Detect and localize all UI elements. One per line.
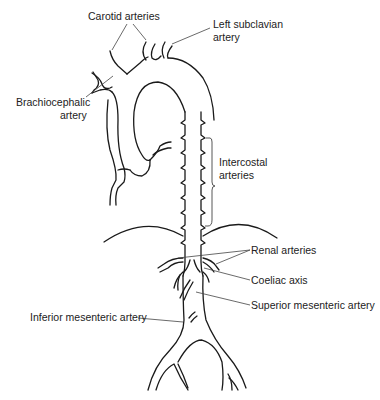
diaphragm-drawing xyxy=(104,224,277,242)
leader-coeliac xyxy=(204,268,250,280)
leader-carotid-right xyxy=(112,24,127,50)
abdominal-branches-drawing xyxy=(158,258,219,322)
label-inferior-mesenteric-artery: Inferior mesenteric artery xyxy=(30,311,147,323)
descending-aorta-drawing xyxy=(181,112,205,276)
leader-carotid-left xyxy=(133,24,146,40)
label-intercostal-line1: Intercostal xyxy=(219,156,267,168)
label-left-subclavian-line2: artery xyxy=(213,31,241,43)
aorta-diagram: Carotid arteries Left subclavian artery … xyxy=(0,0,380,400)
leader-left-subclavian xyxy=(172,28,210,44)
label-brachiocephalic-line2: artery xyxy=(60,109,88,121)
label-intercostal-line2: arteries xyxy=(219,169,254,181)
label-left-subclavian-line1: Left subclavian xyxy=(213,18,283,30)
label-superior-mesenteric-artery: Superior mesenteric artery xyxy=(251,299,375,311)
leader-renal-left xyxy=(178,250,250,258)
label-renal-arteries: Renal arteries xyxy=(251,244,316,256)
intercostal-brace xyxy=(205,138,215,226)
brachiocephalic-artery-drawing xyxy=(92,51,148,93)
label-brachiocephalic-line1: Brachiocephalic xyxy=(16,96,90,108)
abdominal-aorta-drawing xyxy=(148,276,246,390)
aortic-arch-drawing xyxy=(107,58,214,205)
label-coeliac-axis: Coeliac axis xyxy=(251,274,308,286)
label-carotid-arteries: Carotid arteries xyxy=(88,10,160,22)
